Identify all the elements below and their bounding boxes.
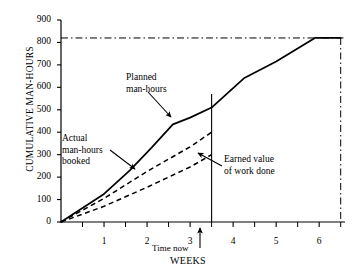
axis-lines	[61, 20, 345, 222]
planned-label-arrow	[148, 92, 171, 117]
y-axis-tick-label: 300	[25, 149, 51, 159]
y-axis-tick-label: 500	[25, 104, 51, 114]
planned-man-hours-annotation: Planned man-hours	[126, 72, 167, 95]
x-axis-tick-label: 1	[97, 236, 111, 246]
time-now-annotation: Time now	[152, 243, 188, 255]
y-axis-tick-label: 400	[25, 126, 51, 136]
data-series	[61, 38, 341, 222]
x-axis-tick-label: 6	[312, 236, 326, 246]
y-axis-tick-label: 100	[25, 194, 51, 204]
planned-label-line-2: man-hours	[126, 84, 167, 96]
y-axis-tick-label: 700	[25, 59, 51, 69]
planned-label-line-1: Planned	[126, 72, 167, 84]
y-axis-tick-label: 600	[25, 81, 51, 91]
chart-plot-area	[0, 0, 364, 277]
earned-label-line-1: Earned value	[224, 154, 275, 166]
x-axis-title: WEEKS	[170, 255, 206, 266]
actual-label-arrow	[110, 150, 135, 169]
annotation-arrows	[110, 92, 222, 248]
actual-label-line-2: man-hours	[62, 145, 103, 157]
earned-label-line-2: of work done	[224, 166, 275, 178]
y-axis-tick-label: 800	[25, 36, 51, 46]
earned-value-annotation: Earned value of work done	[224, 154, 275, 177]
y-axis-tick-label: 900	[25, 14, 51, 24]
y-axis-tick-label: 200	[25, 171, 51, 181]
actual-man-hours-annotation: Actual man-hours booked	[62, 133, 103, 168]
x-axis-tick-label: 5	[269, 236, 283, 246]
series-planned-man-hours	[61, 38, 341, 222]
x-axis-tick-label: 4	[226, 236, 240, 246]
chart-figure: CUMULATIVE MAN-HOURS WEEKS 0100200300400…	[0, 0, 364, 277]
y-axis-tick-label: 0	[25, 216, 51, 226]
actual-label-line-1: Actual	[62, 133, 103, 145]
x-axis-minor-ticks	[83, 222, 341, 227]
actual-label-line-3: booked	[62, 156, 103, 168]
